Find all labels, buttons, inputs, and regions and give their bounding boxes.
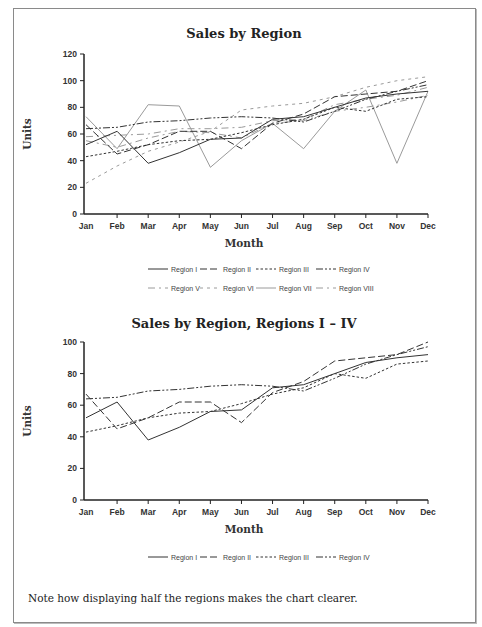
x-tick-label: Nov <box>389 507 405 517</box>
x-tick-label: Sep <box>327 507 343 517</box>
legend-item: Region III <box>256 554 309 562</box>
x-axis-label: Month <box>225 523 264 535</box>
y-tick-label: 40 <box>68 432 78 442</box>
x-tick-label: Aug <box>295 507 312 517</box>
x-tick-label: Jul <box>266 507 278 517</box>
y-axis-label: Units <box>21 405 33 437</box>
x-tick-label: Feb <box>110 507 125 517</box>
y-tick-label: 80 <box>68 369 78 379</box>
x-tick-label: Mar <box>141 507 157 517</box>
legend-item: Region IV <box>316 554 370 562</box>
series-line-region-iv <box>86 347 428 399</box>
x-tick-label: May <box>202 507 219 517</box>
x-tick-label: Jan <box>79 507 94 517</box>
series-line-region-iii <box>86 361 428 432</box>
chart-sales-by-region-i-iv: Sales by Region, Regions I – IV020406080… <box>0 0 482 580</box>
x-tick-label: Apr <box>172 507 187 517</box>
legend-label: Region III <box>279 554 309 562</box>
y-tick-label: 100 <box>63 337 77 347</box>
legend-item: Region II <box>200 554 251 562</box>
y-tick-label: 60 <box>68 400 78 410</box>
legend-label: Region II <box>223 554 251 562</box>
x-tick-label: Jun <box>234 507 249 517</box>
legend-item: Region I <box>148 554 197 562</box>
chart-title: Sales by Region, Regions I – IV <box>131 316 357 331</box>
x-tick-label: Dec <box>420 507 436 517</box>
x-tick-label: Oct <box>359 507 373 517</box>
legend-label: Region IV <box>339 554 370 562</box>
caption-note: Note how displaying half the regions mak… <box>28 592 358 604</box>
series-line-region-i <box>86 355 428 440</box>
y-tick-label: 20 <box>68 463 78 473</box>
legend-label: Region I <box>171 554 197 562</box>
y-tick-label: 0 <box>72 495 77 505</box>
